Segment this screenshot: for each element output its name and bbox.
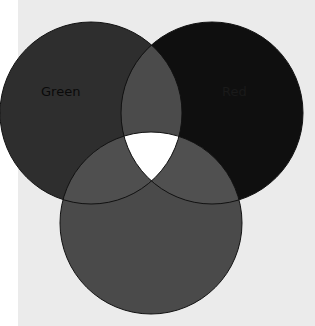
- green-label: Green: [41, 84, 80, 99]
- red-label: Red: [222, 84, 247, 99]
- venn-diagram: Green Red: [0, 0, 315, 326]
